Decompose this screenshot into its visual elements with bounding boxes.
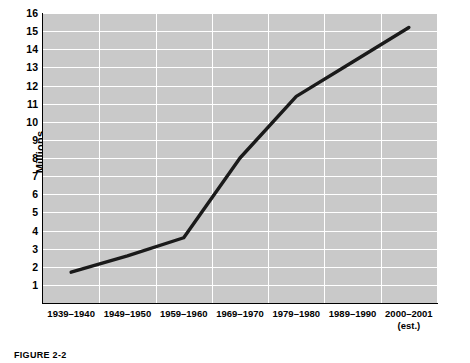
- y-axis-tick-label: 15: [16, 26, 38, 36]
- y-axis-tick-label: 5: [16, 207, 38, 217]
- y-axis-tick-label: 2: [16, 262, 38, 272]
- y-axis-tick-label: 6: [16, 189, 38, 199]
- x-axis-tick-sublabel: (est.): [364, 320, 454, 332]
- y-axis-tick-label: 14: [16, 44, 38, 54]
- y-axis-tick-label: 9: [16, 135, 38, 145]
- figure-line-chart: Millions 16151413121110987654321 1939–19…: [0, 0, 470, 363]
- y-axis-tick-label: 7: [16, 171, 38, 181]
- x-axis-tick-label-text: 2000–2001: [385, 308, 433, 319]
- y-axis-tick-label: 13: [16, 62, 38, 72]
- y-axis-tick-label: 1: [16, 280, 38, 290]
- y-axis-tick-label: 12: [16, 81, 38, 91]
- y-axis-tick-label: 11: [16, 99, 38, 109]
- x-axis-tick-labels: 1939–19401949–19501959–19601969–19701979…: [0, 308, 470, 338]
- x-axis-line: [42, 303, 438, 304]
- y-axis-tick-label: 16: [16, 8, 38, 18]
- y-axis-tick-label: 4: [16, 226, 38, 236]
- y-axis-tick-label: 8: [16, 153, 38, 163]
- x-axis-tick-label: 2000–2001(est.): [364, 308, 454, 332]
- data-series-line: [43, 13, 437, 303]
- figure-caption: FIGURE 2-2: [14, 350, 67, 360]
- y-axis-tick-label: 3: [16, 244, 38, 254]
- y-axis-tick-label: 10: [16, 117, 38, 127]
- plot-area: [43, 13, 437, 303]
